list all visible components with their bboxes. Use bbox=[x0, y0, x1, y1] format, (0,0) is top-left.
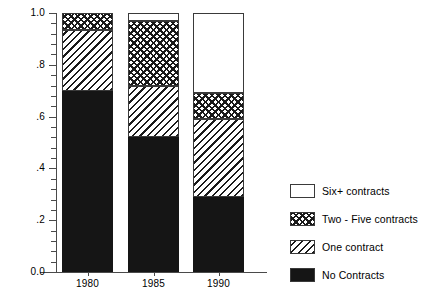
y-axis-minor-tick bbox=[51, 75, 56, 76]
y-axis-minor-tick bbox=[51, 137, 56, 138]
y-axis-minor-tick bbox=[51, 34, 56, 35]
legend-swatch-icon bbox=[290, 268, 315, 282]
y-axis-line bbox=[56, 13, 57, 272]
legend-item-label: Two - Five contracts bbox=[322, 213, 418, 225]
y-axis-major-tick: .2 bbox=[49, 220, 56, 221]
y-axis-minor-tick bbox=[51, 54, 56, 55]
bar-segment bbox=[128, 137, 179, 272]
y-axis-major-tick: .8 bbox=[49, 65, 56, 66]
y-axis-minor-tick bbox=[51, 179, 56, 180]
y-axis-minor-tick bbox=[51, 148, 56, 149]
legend-item-label: One contract bbox=[322, 241, 383, 253]
bar-segment bbox=[62, 91, 113, 272]
x-axis-tick-label: 1990 bbox=[189, 278, 249, 290]
legend-item: No Contracts bbox=[290, 266, 384, 284]
x-axis-tick-label: 1985 bbox=[124, 278, 184, 290]
y-axis-minor-tick bbox=[51, 200, 56, 201]
legend-item-label: No Contracts bbox=[322, 269, 384, 281]
y-axis-tick-label: 0.0 bbox=[30, 266, 45, 277]
y-axis-tick-label: .4 bbox=[36, 162, 45, 173]
y-axis-tick-label: .8 bbox=[36, 59, 45, 70]
y-axis-minor-tick bbox=[51, 127, 56, 128]
legend-swatch-icon bbox=[290, 212, 315, 226]
bar-segment bbox=[128, 86, 179, 138]
legend-item-label: Six+ contracts bbox=[322, 185, 390, 197]
x-axis-tick-label: 1980 bbox=[58, 278, 118, 290]
y-axis-minor-tick bbox=[51, 106, 56, 107]
bar-segment bbox=[193, 119, 244, 197]
bar-segment bbox=[62, 13, 113, 30]
legend-item: Six+ contracts bbox=[290, 182, 390, 200]
stacked-bar bbox=[62, 13, 113, 272]
y-axis-minor-tick bbox=[51, 189, 56, 190]
y-axis-major-tick: .6 bbox=[49, 117, 56, 118]
bar-segment bbox=[193, 197, 244, 272]
y-axis-tick-label: .6 bbox=[36, 111, 45, 122]
y-axis-tick-label: .2 bbox=[36, 214, 45, 225]
stacked-bar bbox=[128, 13, 179, 272]
y-axis-major-tick: 0.0 bbox=[49, 272, 56, 273]
legend-item: Two - Five contracts bbox=[290, 210, 418, 228]
x-axis-tick bbox=[88, 272, 89, 276]
stacked-bar-chart: 0.0.2.4.6.81.0 198019851990 Six+ contrac… bbox=[0, 0, 421, 302]
y-axis-minor-tick bbox=[51, 96, 56, 97]
y-axis-tick-label: 1.0 bbox=[30, 7, 45, 18]
y-axis-minor-tick bbox=[51, 251, 56, 252]
legend-swatch-icon bbox=[290, 240, 315, 254]
y-axis-major-tick: .4 bbox=[49, 168, 56, 169]
y-axis-minor-tick bbox=[51, 86, 56, 87]
bar-segment bbox=[128, 13, 179, 21]
legend-item: One contract bbox=[290, 238, 383, 256]
y-axis-minor-tick bbox=[51, 262, 56, 263]
y-axis-minor-tick bbox=[51, 23, 56, 24]
bar-segment bbox=[128, 21, 179, 86]
legend-swatch-icon bbox=[290, 184, 315, 198]
y-axis-minor-tick bbox=[51, 231, 56, 232]
bar-segment bbox=[193, 93, 244, 119]
x-axis-tick bbox=[219, 272, 220, 276]
y-axis-minor-tick bbox=[51, 158, 56, 159]
stacked-bar bbox=[193, 13, 244, 272]
bar-segment bbox=[193, 13, 244, 93]
bar-segment bbox=[62, 30, 113, 91]
y-axis-major-tick: 1.0 bbox=[49, 13, 56, 14]
y-axis-minor-tick bbox=[51, 44, 56, 45]
x-axis-tick bbox=[154, 272, 155, 276]
y-axis-minor-tick bbox=[51, 241, 56, 242]
y-axis-minor-tick bbox=[51, 210, 56, 211]
